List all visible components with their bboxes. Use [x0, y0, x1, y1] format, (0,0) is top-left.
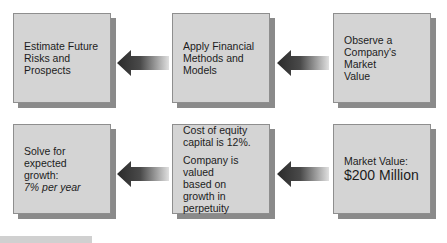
text-line: Models: [183, 64, 217, 76]
text-line: Apply Financial: [183, 40, 254, 52]
box-cost-para1: Cost of equity capital is 12%.: [183, 124, 259, 148]
box-solve-expected-growth: Solve for expected growth: 7% per year: [13, 124, 111, 214]
text-line: capital is 12%.: [183, 136, 251, 148]
arrow-left-icon: [117, 161, 169, 187]
text-line: growth:: [24, 169, 58, 181]
market-value-label: Market Value:: [344, 155, 408, 167]
market-value-amount: $200 Million: [344, 167, 419, 183]
box-cost-of-equity: Cost of equity capital is 12%. Company i…: [172, 124, 270, 214]
text-line: Cost of equity: [183, 124, 247, 136]
box-observe-market-value: Observe a Company's Market Value: [333, 13, 431, 103]
box-cost-para2: Company is valued based on growth in per…: [183, 154, 259, 214]
arrow-left-icon: [277, 161, 329, 187]
text-line: Company is valued: [183, 154, 238, 178]
text-line: Methods and: [183, 52, 244, 64]
text-line: Observe a: [344, 34, 392, 46]
arrow-left-icon: [117, 50, 169, 76]
box-estimate-text: Estimate Future Risks and Prospects: [24, 40, 100, 76]
text-line: Estimate Future: [24, 40, 98, 52]
box-market-value: Market Value: $200 Million: [333, 124, 431, 214]
text-line: Value: [344, 70, 370, 82]
box-estimate-future-risks: Estimate Future Risks and Prospects: [13, 13, 111, 103]
text-line: Solve for expected: [24, 145, 67, 169]
text-line: perpetuity: [183, 202, 229, 214]
footer-bar: [0, 236, 92, 243]
growth-rate: 7% per year: [24, 181, 81, 193]
box-apply-financial-methods: Apply Financial Methods and Models: [172, 13, 270, 103]
text-line: Company's Market: [344, 46, 396, 70]
box-market-text: Market Value: $200 Million: [344, 155, 420, 184]
text-line: Risks and Prospects: [24, 52, 71, 76]
text-line: based on growth in: [183, 178, 226, 202]
box-apply-text: Apply Financial Methods and Models: [183, 40, 259, 76]
arrow-left-icon: [277, 50, 329, 76]
box-solve-text: Solve for expected growth: 7% per year: [24, 145, 100, 193]
box-observe-text: Observe a Company's Market Value: [344, 34, 420, 82]
